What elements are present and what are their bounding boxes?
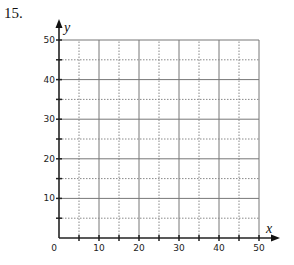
coordinate-grid: 010203040501020304050 y x [0, 0, 294, 265]
y-tick-label: 20 [44, 154, 56, 164]
x-tick-label: 30 [173, 243, 185, 253]
axes [56, 19, 281, 242]
x-tick-label: 0 [51, 243, 57, 253]
ticks [56, 40, 259, 241]
gridlines [59, 40, 259, 238]
tick-labels: 010203040501020304050 [44, 35, 265, 253]
y-tick-label: 50 [44, 35, 56, 45]
x-axis-label: x [265, 221, 273, 236]
y-tick-label: 30 [44, 114, 56, 124]
x-tick-label: 10 [93, 243, 105, 253]
x-tick-label: 40 [213, 243, 225, 253]
y-tick-label: 40 [44, 75, 56, 85]
y-axis-label: y [62, 20, 71, 35]
x-tick-label: 20 [133, 243, 145, 253]
y-axis-arrow-icon [56, 19, 63, 28]
x-tick-label: 50 [253, 243, 265, 253]
y-tick-label: 10 [44, 193, 56, 203]
x-axis-arrow-icon [271, 235, 280, 242]
